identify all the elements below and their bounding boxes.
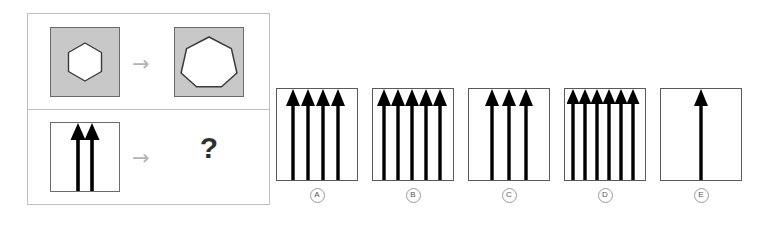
up-arrows-icon	[286, 89, 348, 181]
option-c[interactable]: C	[468, 88, 550, 203]
result-tile-heptagon	[174, 27, 244, 97]
option-b-box[interactable]	[372, 88, 454, 181]
option-a[interactable]: A	[276, 88, 358, 203]
option-c-letter: C	[502, 188, 517, 203]
option-c-box[interactable]	[468, 88, 550, 181]
transform-arrow-icon-bottom: →	[132, 148, 150, 169]
up-arrows-icon	[377, 89, 449, 181]
analogy-puzzle: →	[0, 0, 761, 226]
option-a-label: A	[276, 188, 358, 203]
stimulus-row-bottom: → ?	[28, 110, 269, 205]
option-d-letter: D	[598, 188, 613, 203]
option-b-arrow-field	[373, 89, 453, 180]
option-e-arrow-field	[661, 89, 741, 180]
up-arrows-icon	[567, 89, 643, 181]
stimulus-row-top: →	[28, 14, 269, 110]
option-e-label: E	[660, 188, 742, 203]
heptagon-icon	[180, 33, 238, 91]
up-arrows-icon	[485, 89, 533, 181]
answer-options: A B	[276, 88, 756, 208]
hexagon-icon	[60, 37, 110, 87]
option-e-letter: E	[694, 188, 709, 203]
question-mark-placeholder: ?	[189, 133, 229, 163]
up-arrow-icon	[693, 89, 709, 181]
option-a-box[interactable]	[276, 88, 358, 181]
option-d-box[interactable]	[564, 88, 646, 181]
stimulus-panel: →	[27, 13, 270, 205]
source-tile-arrows	[50, 122, 120, 192]
option-b-letter: B	[406, 188, 421, 203]
option-e-box[interactable]	[660, 88, 742, 181]
option-b[interactable]: B	[372, 88, 454, 203]
option-d-arrow-field	[565, 89, 645, 180]
option-e[interactable]: E	[660, 88, 742, 203]
source-tile-hexagon	[50, 27, 120, 97]
option-a-arrow-field	[277, 89, 357, 180]
option-c-label: C	[468, 188, 550, 203]
transform-arrow-icon-top: →	[132, 54, 150, 75]
up-arrows-icon	[65, 123, 105, 191]
option-c-arrow-field	[469, 89, 549, 180]
option-d[interactable]: D	[564, 88, 646, 203]
option-a-letter: A	[310, 188, 325, 203]
option-b-label: B	[372, 188, 454, 203]
stimulus-arrow-field	[51, 123, 119, 191]
option-d-label: D	[564, 188, 646, 203]
